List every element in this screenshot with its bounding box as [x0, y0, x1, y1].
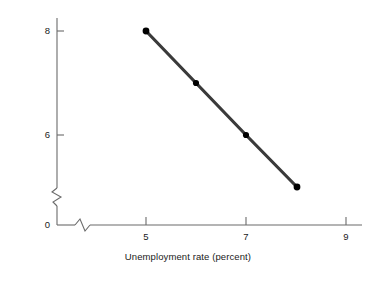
data-line-phillips-curve [146, 31, 297, 187]
data-point-marker [294, 184, 301, 191]
x-axis-break-icon [75, 219, 90, 231]
x-tick-label-7: 7 [243, 232, 248, 242]
plot-canvas [0, 0, 376, 281]
data-point-marker [193, 80, 199, 86]
y-axis-break-icon [52, 188, 61, 206]
y-tick-label-6: 6 [34, 130, 50, 140]
x-tick-label-9: 9 [343, 232, 348, 242]
x-axis-title: Unemployment rate (percent) [0, 251, 376, 262]
y-tick-label-origin: 0 [34, 220, 50, 230]
chart-figure: 8 6 0 5 7 9 Unemployment rate (percent) … [0, 0, 376, 281]
data-point-marker [143, 28, 150, 35]
y-tick-label-8: 8 [34, 26, 50, 36]
data-point-marker [243, 132, 249, 138]
x-tick-label-5: 5 [143, 232, 148, 242]
